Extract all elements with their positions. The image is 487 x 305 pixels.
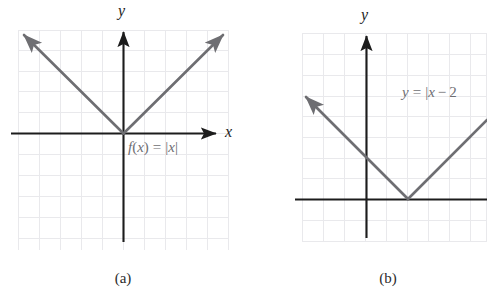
equation-a-var: x — [137, 139, 144, 155]
curve-b-right-branch — [408, 120, 487, 199]
equation-a-abs-var: x — [168, 139, 175, 155]
equation-label-a: f(x)=|x| — [128, 139, 178, 156]
caption-a: (a) — [93, 270, 153, 287]
graph-panel-b: y y=|x−2 — [250, 0, 487, 262]
equation-b-abs-var: x — [428, 84, 435, 100]
figure-root: y x f(x)=|x| — [0, 0, 487, 305]
curve-b-left-branch — [306, 97, 408, 199]
panel-a-plot — [0, 0, 250, 262]
grid-lines-b — [302, 33, 487, 242]
equation-a-bar-right: | — [175, 139, 178, 155]
equation-b-constant: 2 — [449, 84, 457, 100]
equation-a-equals: = — [149, 139, 165, 155]
caption-b: (b) — [358, 270, 418, 287]
panel-b-plot — [250, 0, 487, 262]
graph-panel-a: y x f(x)=|x| — [0, 0, 250, 262]
y-axis-label-a: y — [118, 2, 125, 20]
y-axis-label-b: y — [361, 6, 368, 24]
equation-b-minus: − — [435, 84, 449, 100]
equation-b-equals: = — [409, 84, 425, 100]
equation-b-lhs: y — [402, 84, 409, 100]
x-axis-label-a: x — [225, 123, 232, 141]
equation-label-b: y=|x−2 — [402, 84, 457, 101]
curve-a-right-branch — [124, 35, 224, 134]
curve-a-left-branch — [24, 35, 124, 134]
